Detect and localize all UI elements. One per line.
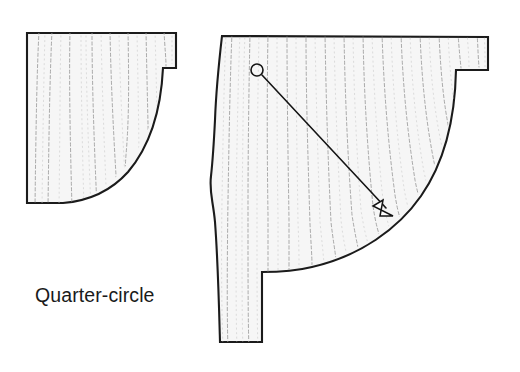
figure-root: Quarter-circle [0,0,520,372]
diagram-canvas: Quarter-circle [0,0,520,372]
caption-label: Quarter-circle [35,284,155,306]
right-quarter-circle-panel [210,33,488,348]
left-quarter-circle-panel [27,31,176,208]
right-panel-outline [210,36,488,342]
